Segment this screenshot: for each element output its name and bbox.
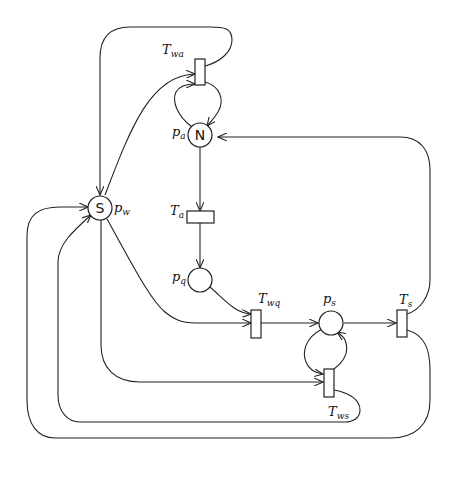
label-pq: pq: [172, 269, 186, 286]
label-twa: Twa: [162, 42, 184, 59]
arc-pw-to-tws: [101, 220, 323, 382]
label-pa: pa: [172, 124, 186, 141]
place-pw: S pw: [88, 196, 130, 220]
place-pa: N pa: [172, 123, 212, 147]
arc-twa-to-pa: [205, 82, 221, 126]
arcs: [27, 27, 430, 438]
arc-pq-to-twq: [210, 287, 251, 314]
transition-ta: Ta: [170, 203, 214, 223]
label-twq: Twq: [258, 291, 280, 308]
transition-twq: Twq: [251, 291, 280, 338]
transition-twq-bar: [251, 310, 261, 338]
transition-ts: Ts: [397, 292, 413, 337]
label-ps: ps: [323, 291, 336, 308]
arc-tws-to-ps: [334, 332, 347, 369]
transition-twa: Twa: [162, 42, 205, 85]
label-ts: Ts: [399, 292, 413, 309]
arc-ps-to-tws: [304, 329, 323, 374]
label-pw: pw: [114, 200, 130, 217]
transition-tws-bar: [324, 369, 334, 397]
token-pw: S: [96, 200, 105, 216]
transition-tws: Tws: [324, 369, 349, 421]
place-pq: pq: [172, 268, 212, 292]
petri-net-diagram: S pw N pa pq ps Twa Ta Twq Ts Tws: [0, 0, 455, 481]
place-ps: ps: [319, 291, 343, 335]
transition-ta-bar: [187, 211, 214, 223]
place-pq-circle: [188, 268, 212, 292]
place-ps-circle: [319, 311, 343, 335]
arc-ts-to-pa: [218, 137, 430, 314]
transition-twa-bar: [195, 59, 205, 85]
label-ta: Ta: [170, 203, 184, 220]
transition-ts-bar: [397, 310, 407, 337]
arc-pa-to-twa: [175, 84, 195, 127]
token-pa: N: [195, 127, 205, 143]
arc-tws-to-pw: [58, 215, 360, 422]
label-tws: Tws: [328, 404, 349, 421]
